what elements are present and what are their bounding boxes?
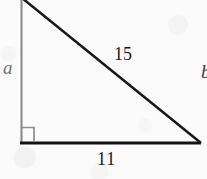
vertical-leg-label: a bbox=[3, 58, 13, 77]
base-leg-label: 11 bbox=[97, 150, 116, 168]
hypotenuse-line bbox=[22, 0, 201, 143]
right-angle-marker-icon bbox=[22, 128, 35, 143]
geometry-figure: a 15 11 b bbox=[0, 0, 207, 179]
cropped-edge-glyph: b bbox=[201, 62, 207, 81]
hypotenuse-label: 15 bbox=[114, 45, 132, 63]
